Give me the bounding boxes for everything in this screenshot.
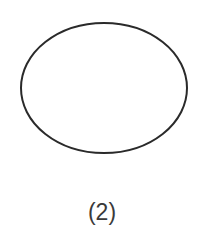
figure-label: (2)	[0, 198, 201, 226]
ellipse-shape	[21, 23, 187, 153]
figure-canvas	[0, 0, 201, 229]
